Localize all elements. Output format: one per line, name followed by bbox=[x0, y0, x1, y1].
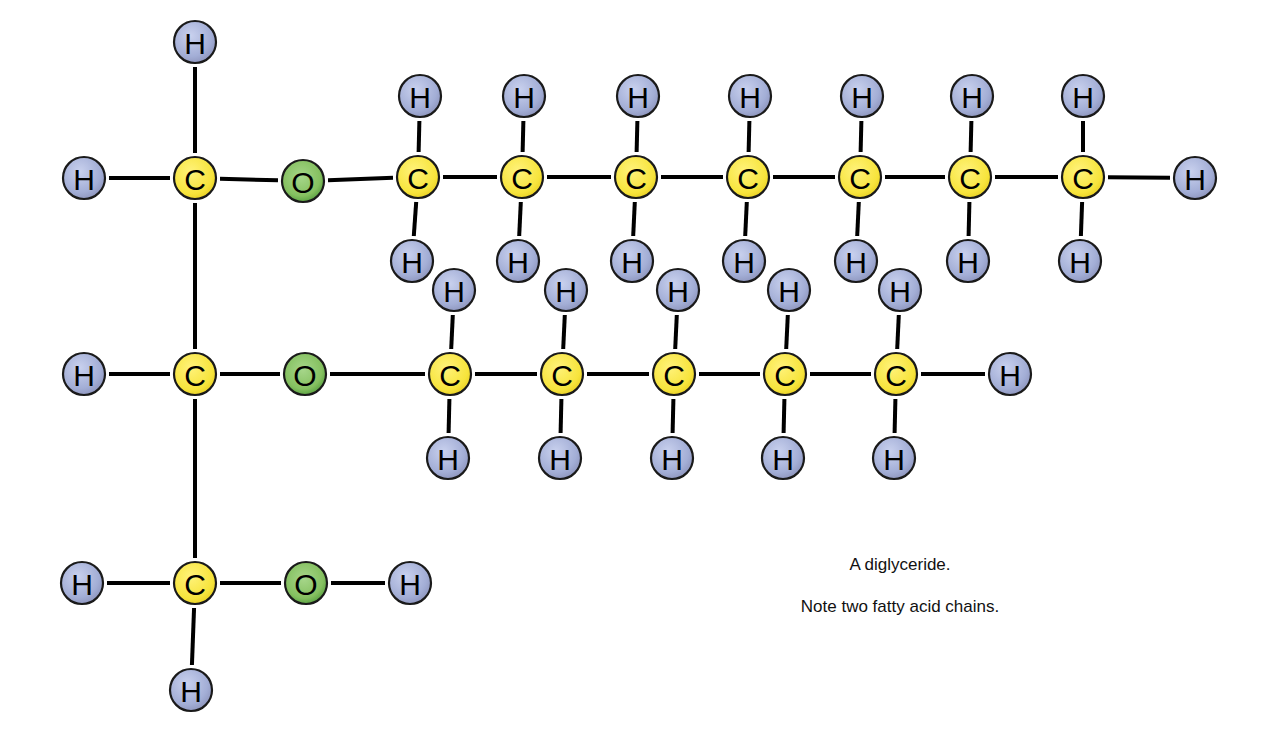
atom-label: H bbox=[437, 443, 459, 476]
bond-m2-m2u bbox=[563, 315, 565, 349]
carbon-atom: C bbox=[425, 349, 475, 399]
atom-label: H bbox=[999, 359, 1021, 392]
atom-label: H bbox=[667, 275, 689, 308]
hydrogen-atom: H bbox=[943, 236, 993, 286]
bond-m5-m5d bbox=[895, 399, 896, 433]
bond-m4-m4u bbox=[786, 315, 788, 349]
carbon-atom: C bbox=[537, 349, 587, 399]
atom-label: H bbox=[1069, 246, 1091, 279]
hydrogen-atom: H bbox=[535, 433, 585, 483]
carbon-atom: C bbox=[393, 152, 443, 202]
bond-m3-m3u bbox=[675, 315, 677, 349]
hydrogen-atom: H bbox=[719, 236, 769, 286]
hydrogen-atom: H bbox=[725, 71, 775, 121]
atom-label: C bbox=[184, 568, 206, 601]
hydrogen-atom: H bbox=[764, 265, 814, 315]
bond-t5-t5d bbox=[857, 202, 859, 236]
atom-label: C bbox=[959, 162, 981, 195]
atom-label: H bbox=[778, 275, 800, 308]
atom-label: H bbox=[73, 359, 95, 392]
atom-label: H bbox=[889, 275, 911, 308]
atom-label: H bbox=[1072, 81, 1094, 114]
hydrogen-atom: H bbox=[947, 71, 997, 121]
carbon-atom: C bbox=[945, 152, 995, 202]
bond-m1-m1d bbox=[449, 399, 450, 433]
hydrogen-atom: H bbox=[499, 71, 549, 121]
atom-label: H bbox=[961, 81, 983, 114]
hydrogen-atom: H bbox=[166, 665, 216, 715]
hydrogen-atom: H bbox=[59, 349, 109, 399]
oxygen-atom: O bbox=[278, 156, 328, 206]
bond-m1-m1u bbox=[451, 315, 453, 349]
bond-t4-t4u bbox=[749, 121, 750, 152]
atom-label: O bbox=[294, 568, 317, 601]
carbon-atom: C bbox=[611, 152, 661, 202]
bond-t1-t1d bbox=[414, 202, 416, 236]
hydrogen-atom: H bbox=[653, 265, 703, 315]
carbon-atom: C bbox=[760, 349, 810, 399]
atom-label: H bbox=[772, 443, 794, 476]
atom-label: C bbox=[407, 162, 429, 195]
bond-t7-t7r bbox=[1108, 177, 1170, 178]
atom-label: O bbox=[293, 359, 316, 392]
atom-label: H bbox=[1184, 163, 1206, 196]
diagram-title: A diglyceride. bbox=[730, 555, 1070, 575]
atom-label: H bbox=[399, 568, 421, 601]
atom-label: O bbox=[291, 166, 314, 199]
atom-label: H bbox=[73, 163, 95, 196]
hydrogen-atom: H bbox=[607, 236, 657, 286]
atom-label: H bbox=[549, 443, 571, 476]
hydrogen-atom: H bbox=[1055, 236, 1105, 286]
hydrogen-atom: H bbox=[613, 71, 663, 121]
hydrogen-atom: H bbox=[758, 433, 808, 483]
carbon-atom: C bbox=[497, 152, 547, 202]
atom-label: H bbox=[661, 443, 683, 476]
hydrogen-atom: H bbox=[387, 236, 437, 286]
hydrogen-atom: H bbox=[170, 17, 220, 67]
atom-label: C bbox=[625, 162, 647, 195]
hydrogen-atom: H bbox=[59, 153, 109, 203]
atom-label: H bbox=[621, 246, 643, 279]
bond-t1-t1u bbox=[419, 121, 420, 152]
bond-o1-t1 bbox=[328, 178, 393, 180]
atom-label: C bbox=[774, 359, 796, 392]
hydrogen-atom: H bbox=[385, 558, 435, 608]
atom-label: C bbox=[885, 359, 907, 392]
carbon-atom: C bbox=[649, 349, 699, 399]
atom-label: C bbox=[184, 163, 206, 196]
atom-label: H bbox=[845, 246, 867, 279]
bond-t2-t2d bbox=[519, 202, 521, 236]
atom-label: H bbox=[733, 246, 755, 279]
hydrogen-atom: H bbox=[429, 265, 479, 315]
hydrogen-atom: H bbox=[837, 71, 887, 121]
atom-label: H bbox=[401, 246, 423, 279]
hydrogen-atom: H bbox=[1170, 153, 1220, 203]
hydrogen-atom: H bbox=[493, 236, 543, 286]
carbon-atom: C bbox=[871, 349, 921, 399]
hydrogen-atom: H bbox=[869, 433, 919, 483]
hydrogen-atom: H bbox=[57, 558, 107, 608]
atom-label: C bbox=[1072, 162, 1094, 195]
bond-m4-m4d bbox=[784, 399, 785, 433]
hydrogen-atom: H bbox=[541, 265, 591, 315]
bond-t6-t6u bbox=[971, 121, 972, 152]
oxygen-atom: O bbox=[281, 558, 331, 608]
atom-label: C bbox=[184, 359, 206, 392]
atom-label: H bbox=[957, 246, 979, 279]
atom-label: H bbox=[851, 81, 873, 114]
hydrogen-atom: H bbox=[423, 433, 473, 483]
atom-label: H bbox=[513, 81, 535, 114]
atom-label: C bbox=[849, 162, 871, 195]
bond-g1c-o1 bbox=[220, 179, 278, 181]
bond-t7-t7d bbox=[1081, 202, 1082, 236]
hydrogen-atom: H bbox=[831, 236, 881, 286]
atom-label: C bbox=[439, 359, 461, 392]
bond-t5-t5u bbox=[861, 121, 862, 152]
atom-label: C bbox=[511, 162, 533, 195]
bond-t6-t6d bbox=[969, 202, 970, 236]
atom-label: H bbox=[555, 275, 577, 308]
atom-label: H bbox=[443, 275, 465, 308]
carbon-atom: C bbox=[170, 153, 220, 203]
atom-label: H bbox=[507, 246, 529, 279]
diagram-subtitle: Note two fatty acid chains. bbox=[730, 597, 1070, 617]
